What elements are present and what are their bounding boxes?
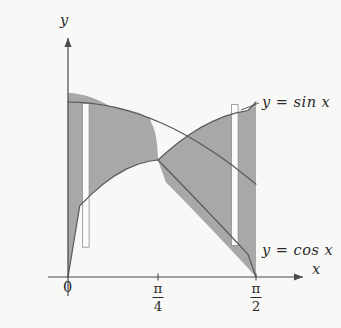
x-tick-label-pi-over-2: π 2 [251,281,262,313]
fraction-numerator: π [251,281,262,296]
figure-canvas [0,0,341,328]
sin-curve-label: y = sin x [262,95,330,110]
fraction-denominator: 2 [251,299,262,314]
representative-rectangle-left [83,103,90,247]
y-axis-arrowhead [64,38,71,47]
representative-rectangle-right [232,104,239,245]
shaded-region-group [68,93,256,277]
x-axis-label: x [312,262,320,277]
x-tick-label-pi-over-4: π 4 [153,281,164,313]
cos-curve-label: y = cos x [262,243,333,258]
sin-cos-region-figure: y x y = sin x y = cos x 0 π 4 π 2 [0,0,341,328]
shaded-region-left-exact [68,102,158,277]
y-axis-label: y [60,13,68,28]
x-tick-label-0: 0 [63,280,72,295]
fraction-denominator: 4 [153,299,164,314]
fraction-numerator: π [153,281,164,296]
x-axis-arrowhead [294,273,303,280]
